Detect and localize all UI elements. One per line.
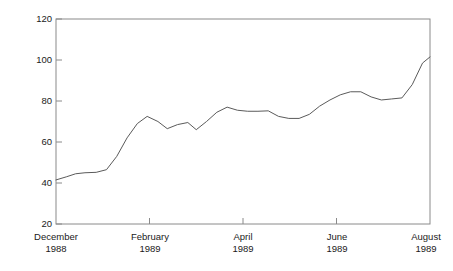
x-axis-ticks [150,218,337,224]
x-tick-label-june-1989: June 1989 [294,231,380,255]
x-tick-label-april-1989: April 1989 [200,231,286,255]
x-tick-month: June [294,231,380,243]
share-price-chart-figure: Share price (p) 120 100 80 60 40 20 [0,0,453,271]
x-tick-year: 1989 [107,243,193,255]
y-axis-ticks [56,19,62,224]
x-tick-year: 1989 [383,243,453,255]
x-axis-tick-labels: December 1988 February 1989 April 1989 J… [0,231,453,271]
x-tick-label-december-1988: December 1988 [13,231,99,255]
x-tick-month: April [200,231,286,243]
x-tick-year: 1988 [13,243,99,255]
x-tick-month: December [13,231,99,243]
plot-frame [56,19,430,224]
x-tick-month: February [107,231,193,243]
x-tick-year: 1989 [294,243,380,255]
x-tick-label-august-1989: August 1989 [383,231,453,255]
share-price-line [56,57,430,180]
x-tick-month: August [383,231,453,243]
x-tick-year: 1989 [200,243,286,255]
x-tick-label-february-1989: February 1989 [107,231,193,255]
